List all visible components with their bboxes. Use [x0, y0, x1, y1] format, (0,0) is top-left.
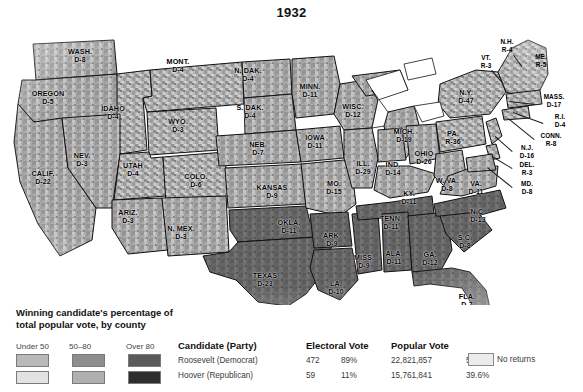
swatch-republican-50-80	[72, 371, 105, 384]
swatch-democrat-under50	[16, 354, 49, 367]
legend-class-labels: Under 50 50–80 Over 80	[16, 342, 166, 353]
row-hoover-candidate: Hoover (Republican)	[178, 371, 253, 380]
swatch-republican-over80	[128, 371, 161, 384]
row-roosevelt-electoral: 472	[306, 356, 320, 365]
legend-class-label-50-80: 50–80	[69, 342, 91, 351]
legend-class-label-over80: Over 80	[126, 342, 154, 351]
row-roosevelt-electoral-pct: 89%	[341, 356, 357, 365]
header-candidate: Candidate (Party)	[178, 340, 257, 351]
legend-no-returns-label: No returns	[497, 355, 535, 364]
swatch-democrat-over80	[128, 354, 161, 367]
row-roosevelt-candidate: Roosevelt (Democrat)	[178, 356, 258, 365]
legend-title: Winning candidate's percentage of total …	[16, 307, 186, 330]
row-roosevelt-popular: 22,821,857	[391, 356, 432, 365]
swatch-republican-under50	[16, 371, 49, 384]
header-electoral-vote: Electoral Vote	[306, 340, 369, 351]
us-county-map	[0, 18, 583, 308]
row-hoover-popular-pct: 39.6%	[466, 371, 489, 380]
row-hoover-popular: 15,761,841	[391, 371, 432, 380]
map-svg	[0, 18, 583, 308]
legend-swatches	[16, 354, 168, 388]
legend-class-label-under50: Under 50	[16, 342, 49, 351]
row-hoover-electoral-pct: 11%	[341, 371, 357, 380]
swatch-democrat-50-80	[72, 354, 105, 367]
map-legend: Winning candidate's percentage of total …	[0, 305, 583, 392]
row-hoover-electoral: 59	[306, 371, 315, 380]
election-map-figure: 1932	[0, 0, 583, 392]
swatch-no-returns	[468, 353, 494, 366]
header-popular-vote: Popular Vote	[391, 340, 449, 351]
